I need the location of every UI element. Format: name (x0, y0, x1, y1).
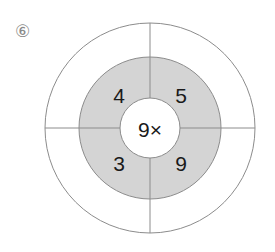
quadrant-value-top-left: 4 (113, 84, 125, 107)
quadrant-value-top-right: 5 (175, 84, 187, 107)
worksheet-page: ⑥ 4 5 3 9 9× (0, 0, 275, 252)
quadrant-value-bottom-left: 3 (113, 152, 125, 175)
quadrant-value-bottom-right: 9 (175, 152, 187, 175)
center-operation-label: 9× (138, 118, 162, 141)
target-wheel-svg: 4 5 3 9 9× (0, 0, 275, 252)
target-wheel-diagram: 4 5 3 9 9× (0, 0, 275, 252)
